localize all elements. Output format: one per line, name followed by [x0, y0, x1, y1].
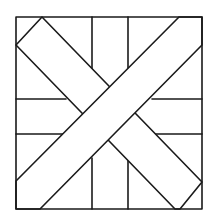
diagram-svg	[0, 0, 212, 220]
quilt-block-diagram	[0, 0, 212, 220]
